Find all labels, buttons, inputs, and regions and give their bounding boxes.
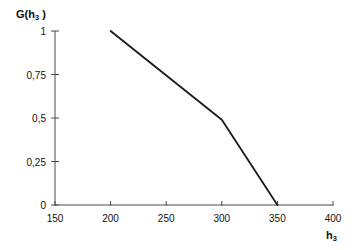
- axes-group: [51, 31, 333, 206]
- chart-canvas: [0, 0, 359, 250]
- chart-figure: G(h3 ) h3 00,250,50,751 1502002503003504…: [0, 0, 359, 250]
- data-line: [111, 31, 278, 205]
- data-series-group: [111, 31, 278, 205]
